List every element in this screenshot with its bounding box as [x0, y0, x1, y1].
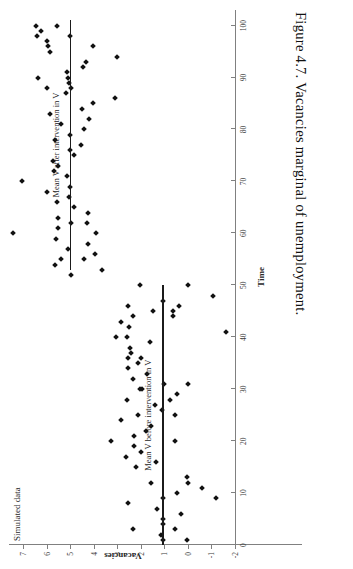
data-point — [38, 28, 44, 34]
data-point — [118, 418, 124, 424]
data-point — [78, 142, 84, 148]
x-tick — [231, 77, 235, 78]
data-point — [137, 282, 143, 288]
y-tick — [164, 545, 165, 549]
data-point — [130, 527, 136, 533]
x-tick — [231, 492, 235, 493]
y-tick — [211, 545, 212, 549]
data-point — [170, 314, 176, 320]
data-point — [184, 475, 190, 481]
data-point — [54, 199, 60, 205]
data-point — [184, 537, 190, 543]
data-point — [99, 267, 105, 273]
data-point — [85, 210, 91, 216]
x-tick-label: 30 — [239, 385, 248, 393]
data-point — [153, 459, 159, 465]
data-point — [54, 23, 60, 29]
data-point — [130, 314, 136, 320]
data-point — [81, 256, 87, 262]
data-point — [90, 101, 96, 107]
data-point — [125, 355, 131, 361]
y-tick — [94, 545, 95, 549]
data-point — [176, 303, 182, 309]
y-tick — [23, 545, 24, 549]
x-axis-line — [235, 10, 236, 545]
data-point — [34, 33, 40, 39]
x-tick-label: 80 — [239, 126, 248, 134]
data-point — [64, 70, 70, 76]
x-tick — [231, 180, 235, 181]
data-point — [125, 303, 131, 309]
y-tick — [70, 545, 71, 549]
y-tick — [188, 545, 189, 549]
data-point — [112, 95, 118, 101]
x-tick — [231, 336, 235, 337]
data-point — [213, 495, 219, 501]
data-point — [125, 366, 131, 372]
y-tick — [141, 545, 142, 549]
data-point — [44, 85, 50, 91]
data-point — [126, 324, 132, 330]
data-point — [63, 90, 69, 96]
data-point — [174, 490, 180, 496]
data-point — [124, 397, 130, 403]
data-point — [114, 54, 120, 60]
data-point — [167, 397, 173, 403]
data-point — [69, 272, 75, 278]
data-point — [147, 340, 153, 346]
plot-title: Simulated data — [12, 487, 22, 541]
x-tick-label: 60 — [239, 230, 248, 238]
y-tick-label: 4 — [89, 552, 98, 556]
data-point — [125, 501, 131, 507]
x-tick — [231, 388, 235, 389]
data-point — [80, 64, 86, 70]
mean-label-mean-before: Mean V before intervention in V — [143, 360, 153, 471]
figure-caption: Figure 4.7. Vacancies marginal of unempl… — [284, 0, 318, 569]
data-point — [131, 443, 137, 449]
y-tick-label: 6 — [42, 552, 51, 556]
y-tick-label: 0 — [183, 552, 192, 556]
data-point — [10, 231, 16, 237]
data-point — [154, 506, 160, 512]
data-point — [124, 334, 130, 340]
data-point — [36, 75, 42, 81]
x-tick — [231, 284, 235, 285]
scatter-chart: Simulated data Time Vacancies 0102030405… — [0, 0, 300, 569]
y-tick — [47, 545, 48, 549]
data-point — [178, 511, 184, 517]
data-point — [85, 241, 91, 247]
mean-label-mean-after: Mean V after intervention in V — [51, 93, 61, 198]
y-tick-label: 2 — [136, 552, 145, 556]
data-point — [185, 282, 191, 288]
data-point — [92, 251, 98, 257]
data-point — [81, 127, 87, 133]
data-point — [93, 231, 99, 237]
data-point — [71, 153, 77, 159]
data-point — [47, 49, 53, 55]
data-point — [185, 381, 191, 387]
y-tick — [117, 545, 118, 549]
rotated-figure-block: Simulated data Time Vacancies 0102030405… — [0, 0, 300, 569]
data-point — [19, 179, 25, 185]
y-axis-line — [9, 544, 302, 545]
y-tick-label: -1 — [207, 552, 216, 558]
data-point — [185, 480, 191, 486]
data-point — [130, 376, 136, 382]
data-point — [131, 433, 137, 439]
x-tick — [231, 128, 235, 129]
x-tick — [231, 440, 235, 441]
x-tick-label: 90 — [239, 74, 248, 82]
x-tick — [231, 232, 235, 233]
data-point — [118, 319, 124, 325]
data-point — [79, 106, 85, 112]
data-point — [223, 329, 229, 335]
y-tick-label: -2 — [231, 552, 240, 558]
data-point — [86, 116, 92, 122]
data-point — [133, 464, 139, 470]
data-point — [123, 454, 129, 460]
y-tick-label: 7 — [19, 552, 28, 556]
data-point — [84, 220, 90, 226]
data-point — [56, 225, 62, 231]
y-tick-label: 5 — [66, 552, 75, 556]
data-point — [58, 256, 64, 262]
